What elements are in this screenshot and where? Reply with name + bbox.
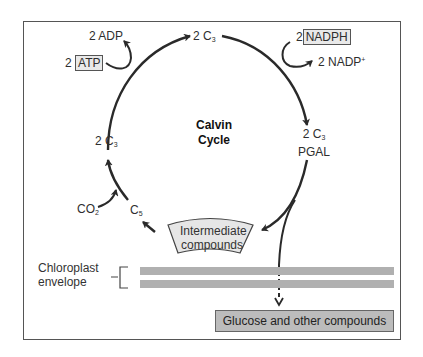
arc-intermediate-to-c5 xyxy=(143,222,155,232)
calvin-cycle-title: Calvin Cycle xyxy=(184,118,244,148)
co2-arrow xyxy=(98,190,116,207)
arc-c5-to-left xyxy=(108,160,128,200)
chloroplast-envelope-label: Chloroplast envelope xyxy=(38,261,99,289)
atp-adp-arrow xyxy=(106,41,131,69)
adp-label: 2 ADP xyxy=(89,29,123,43)
c5-label: C5 xyxy=(130,203,143,221)
envelope-bracket xyxy=(111,267,128,288)
pgal-label: 2 C3 PGAL xyxy=(298,127,330,159)
export-arrowhead xyxy=(275,298,283,305)
arc-left-to-top xyxy=(108,36,190,150)
atp-label: 2 ATP xyxy=(65,56,103,70)
nadph-label: 2NADPH xyxy=(296,30,351,44)
top-c3-label: 2 C3 xyxy=(193,29,216,47)
nadph-box: NADPH xyxy=(303,29,351,45)
arc-top-to-pgal xyxy=(222,36,307,125)
intermediate-compounds-label: Intermediate compounds xyxy=(180,224,244,252)
arc-pgal-to-intermediate xyxy=(262,160,307,230)
nadp-label: 2 NADP+ xyxy=(318,53,365,69)
atp-box: ATP xyxy=(75,55,103,71)
envelope-outer-membrane xyxy=(140,267,394,275)
left-c3-label: 2 C3 xyxy=(95,134,118,152)
co2-label: CO2 xyxy=(77,202,99,220)
envelope-inner-membrane xyxy=(140,280,394,288)
glucose-output-box: Glucose and other compounds xyxy=(215,310,394,332)
nadph-nadp-arrow xyxy=(283,42,313,67)
